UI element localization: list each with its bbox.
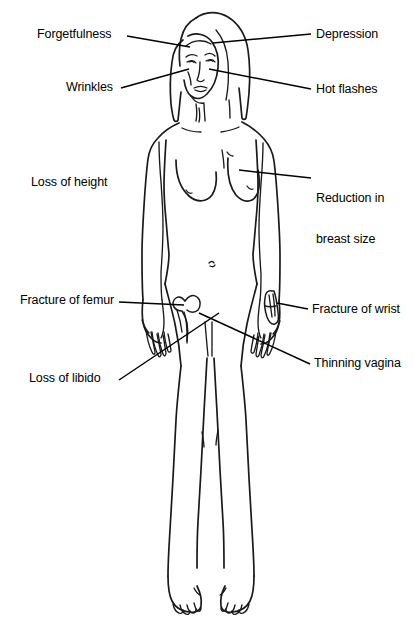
facial-features — [186, 54, 215, 92]
label-fracture-of-femur: Fracture of femur — [20, 294, 114, 308]
leader-wrinkles — [121, 69, 189, 88]
leader-hot-flashes — [209, 69, 311, 89]
label-hot-flashes: Hot flashes — [316, 83, 377, 97]
label-wrinkles: Wrinkles — [66, 81, 113, 95]
label-forgetfulness: Forgetfulness — [37, 28, 111, 42]
face-outline — [184, 34, 218, 103]
label-thinning-vagina: Thinning vagina — [314, 357, 401, 371]
label-loss-of-height: Loss of height — [31, 176, 107, 190]
hair-outline — [170, 13, 249, 122]
label-loss-of-libido: Loss of libido — [29, 372, 101, 386]
wrist-bone-inset — [265, 291, 279, 324]
legs — [168, 358, 254, 595]
leader-lines — [119, 34, 311, 380]
label-reduction-in-breast-size-line1: Reduction in — [316, 192, 384, 206]
label-reduction-in-breast-size: Reduction in breast size — [316, 165, 384, 273]
feet — [168, 576, 254, 614]
torso-outline — [142, 122, 280, 301]
breasts — [176, 150, 259, 201]
leader-loss-of-libido — [119, 313, 219, 380]
label-depression: Depression — [316, 28, 378, 42]
leader-thinning-vagina — [199, 313, 310, 364]
leader-depression — [213, 34, 311, 43]
label-reduction-in-breast-size-line2: breast size — [316, 233, 384, 247]
leader-fracture-wrist — [277, 303, 308, 309]
neck — [196, 104, 205, 122]
menopause-symptoms-diagram: Forgetfulness Depression Wrinkles Hot fl… — [0, 0, 414, 629]
abdomen-navel — [209, 262, 215, 267]
label-fracture-of-wrist: Fracture of wrist — [312, 303, 400, 317]
